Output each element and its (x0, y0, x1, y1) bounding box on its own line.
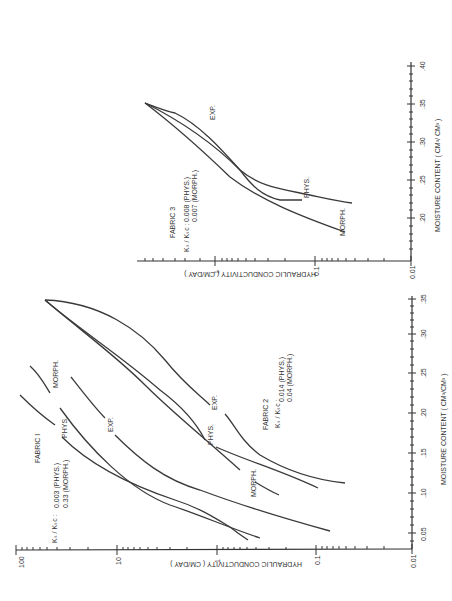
fabric3-tick-0.35: .35 (419, 99, 426, 109)
fabric12-conductivity-label: HYDRAULIC CONDUCTIVITY ( CM/DAY ) (170, 560, 302, 568)
fabric3-title: FABRIC 3 (169, 207, 176, 238)
fabric12-tick-0.15: .15 (420, 448, 427, 458)
fabric3-phys-curve (145, 103, 352, 203)
fabric12-tick-0.01: 0.01 (410, 554, 417, 568)
fabric3-tick-0.20: .20 (419, 213, 426, 223)
fabric2-phys-label: PHYS. (207, 424, 214, 445)
fabric3-tick-0.01: 0.01 (409, 265, 416, 279)
fabric2-ratio-label: Kₛ / Kₛc : (274, 399, 281, 428)
fabric1-ratio-phys: 0.003 (PHYS.) (53, 463, 61, 508)
fabric1-ratio-morph: 0.33 (MORPH.) (62, 460, 70, 508)
fabric1-morph-curve (30, 366, 260, 538)
fabric3-ratio-phys: 0.008 (PHYS.) (183, 177, 191, 222)
fabric12-tick-0.10: .10 (420, 488, 427, 498)
fabric3-tick-0.25: .25 (419, 175, 426, 185)
fabric3-exp-curve (145, 103, 302, 200)
fabric12-tick-0.05: 0.05 (420, 527, 427, 541)
fabric3-ratio-label: Kₛ / Kₛc : (183, 223, 190, 252)
fabric3-panel: 1 0.1 0.01 .20 .25 .30 .35 .40 HYDRAULIC… (137, 61, 442, 279)
fabric3-phys-label: PHYS. (303, 177, 310, 198)
fabric2-morph-curve (45, 300, 279, 495)
fabric3-morph-label: MORPH. (339, 208, 346, 236)
fabric1-title: FABRIC I (34, 434, 41, 463)
fabric2-title: FABRIC 2 (262, 399, 269, 430)
fabric2-ratio-phys: 0.014 (PHYS.) (278, 357, 286, 402)
fabric12-tick-0.1: 0.1 (314, 555, 321, 565)
fabric2-exp-label: EXP. (211, 395, 218, 410)
fabric12-tick-10: 10 (115, 557, 122, 565)
fabric3-tick-0.30: .30 (419, 137, 426, 147)
fabric1-phys-label: PHYS. (61, 417, 68, 438)
fabric3-tick-0.40: .40 (419, 61, 426, 71)
fabric1-exp-label: EXP. (107, 417, 114, 432)
fabric2-exp-curve (45, 300, 345, 483)
fabric3-ratio-morph: 0.007 (MORPH.) (191, 170, 199, 222)
fabric2-ratio-morph: 0.04 (MORPH.) (286, 354, 294, 402)
fabric12-tick-0.30: .30 (420, 329, 427, 339)
fabric12-tick-0.35: .35 (420, 294, 427, 304)
fabric12-tick-0.25: .25 (420, 368, 427, 378)
fabric3-moisture-label: MOISTURE CONTENT ( CM³/ CM³ ) (434, 119, 442, 232)
fabric12-tick-0.20: .20 (420, 408, 427, 418)
fabric3-conductivity-label: HYDRAULIC CONDUCTIVITY ( CM/DAY ) (184, 270, 316, 278)
fabric12-panel: 100 10 1 0.1 0.01 0.05 .10 .15 .20 .25 .… (16, 294, 448, 568)
fabric12-moisture-label: MOISTURE CONTENT ( CM³/CM³ ) (440, 374, 448, 485)
fabric12-conductivity-axis (16, 549, 412, 550)
figure-canvas: 1 0.1 0.01 .20 .25 .30 .35 .40 HYDRAULIC… (0, 0, 452, 601)
fabric2-morph-label: MORPH. (250, 469, 257, 497)
fabric1-morph-label: MORPH. (52, 360, 59, 388)
fabric12-tick-100: 100 (18, 556, 25, 568)
fabric1-ratio-label: Kₛ / Kₛc : (51, 514, 58, 543)
fabric3-exp-label: EXP. (209, 105, 216, 120)
